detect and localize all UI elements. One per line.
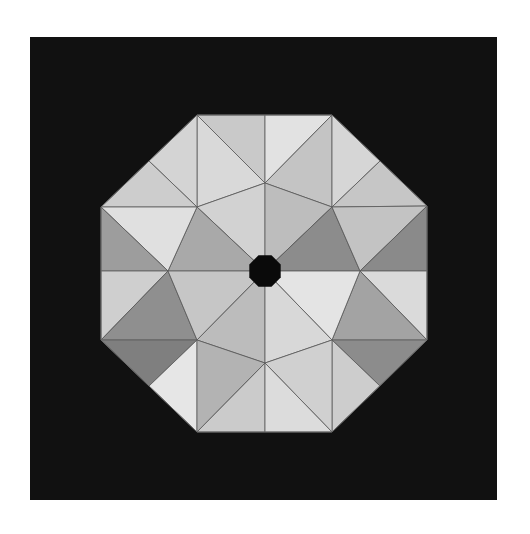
triangulated-octagon-figure bbox=[0, 0, 530, 534]
center-hole bbox=[249, 255, 280, 286]
